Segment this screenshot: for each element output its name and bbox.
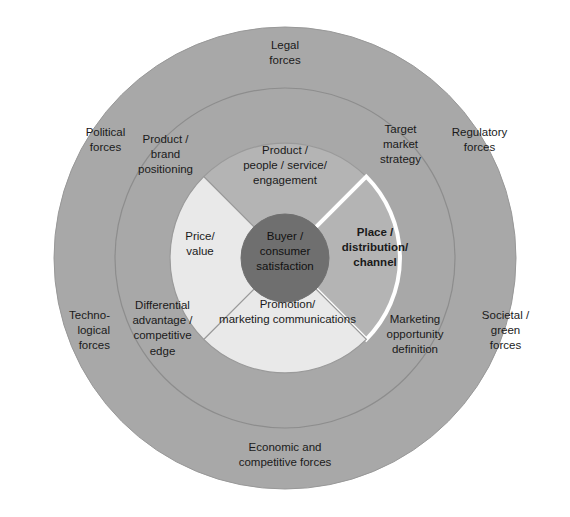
concentric-marketing-diagram: Buyer / consumer satisfaction Product / … xyxy=(0,0,570,517)
core-circle-buyer-consumer-satisfaction xyxy=(241,214,329,302)
diagram-canvas xyxy=(0,0,570,517)
